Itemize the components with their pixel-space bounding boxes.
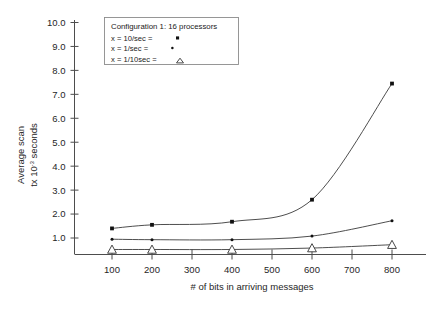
- y-tick-label: 10.0: [47, 17, 66, 28]
- data-point-dot: [111, 238, 114, 241]
- legend-entry-label-0: x = 10/sec =: [111, 34, 153, 43]
- y-axis-title-line2: tx 10-3 seconds: [28, 123, 39, 187]
- x-tick-label: 400: [224, 264, 240, 275]
- data-point-square: [230, 220, 234, 224]
- legend-title: Configuration 1: 16 processors: [111, 22, 217, 31]
- data-point-square: [110, 227, 114, 231]
- x-tick-label: 700: [344, 264, 360, 275]
- y-axis-title-line1: Average scan: [15, 126, 26, 184]
- y-tick-label: 7.0: [52, 89, 65, 100]
- line-chart: 1.02.03.04.05.06.07.08.09.010.0 10020030…: [0, 0, 438, 320]
- y-tick-label: 1.0: [52, 232, 65, 243]
- y-tick-label: 6.0: [52, 113, 65, 124]
- data-point-dot: [391, 219, 394, 222]
- y-tick-label: 2.0: [52, 208, 65, 219]
- y-tick-label: 8.0: [52, 65, 65, 76]
- x-tick-label: 300: [184, 264, 200, 275]
- x-tick-label: 600: [304, 264, 320, 275]
- chart-figure: 1.02.03.04.05.06.07.08.09.010.0 10020030…: [0, 0, 438, 320]
- chart-legend: Configuration 1: 16 processors x = 10/se…: [105, 18, 239, 65]
- legend-entry-label-1: x = 1/sec =: [111, 44, 149, 53]
- legend-entry-label-2: x = 1/10sec =: [111, 55, 157, 64]
- y-tick-label: 3.0: [52, 185, 65, 196]
- x-tick-label: 200: [144, 264, 160, 275]
- y-tick-label: 5.0: [52, 137, 65, 148]
- x-tick-label: 800: [384, 264, 400, 275]
- data-point-square: [150, 223, 154, 227]
- data-point-square: [310, 198, 314, 202]
- data-point-dot: [311, 235, 314, 238]
- x-tick-label: 100: [104, 264, 120, 275]
- y-tick-label: 4.0: [52, 161, 65, 172]
- data-point-dot: [231, 238, 234, 241]
- y-tick-label: 9.0: [52, 41, 65, 52]
- x-axis-title: # of bits in arriving messages: [190, 281, 313, 292]
- legend-square-icon: [176, 36, 179, 39]
- data-point-dot: [151, 238, 154, 241]
- legend-dot-icon: [171, 47, 174, 50]
- x-tick-label: 500: [264, 264, 280, 275]
- data-point-square: [390, 82, 394, 86]
